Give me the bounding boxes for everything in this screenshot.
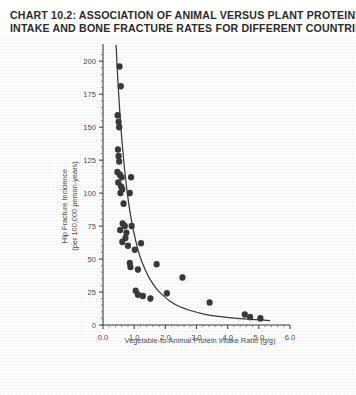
data-point <box>115 146 121 153</box>
data-point <box>127 190 133 197</box>
y-axis-tick-labels: 0255075100125150175200 <box>83 57 96 330</box>
data-point <box>129 223 135 230</box>
y-tick-label: 25 <box>88 288 96 297</box>
y-tick-label: 50 <box>88 255 96 264</box>
y-tick-label: 200 <box>83 57 96 66</box>
y-tick-label: 100 <box>83 189 96 198</box>
y-axis-title-line-2: (per 100,000 person-years) <box>70 161 79 251</box>
data-point <box>116 124 122 131</box>
data-point <box>125 243 131 250</box>
chart-title-line-1: CHART 10.2: ASSOCIATION OF ANIMAL VERSUS… <box>10 9 350 22</box>
data-point <box>116 158 122 165</box>
data-point <box>118 83 124 90</box>
fit-curve <box>116 45 270 320</box>
data-points <box>114 63 263 322</box>
data-point <box>247 314 253 321</box>
data-point <box>140 293 146 300</box>
data-point <box>115 112 121 119</box>
chart-title-line-2: INTAKE AND BONE FRACTURE RATES FOR DIFFE… <box>10 22 350 35</box>
y-tick-label: 150 <box>83 123 96 132</box>
data-point <box>120 200 126 207</box>
data-point <box>128 174 134 181</box>
y-tick-label: 125 <box>83 156 96 165</box>
data-point <box>116 63 122 70</box>
scatter-plot: 0255075100125150175200 0.01.02.03.04.05.… <box>0 36 356 395</box>
chart-figure: 0255075100125150175200 0.01.02.03.04.05.… <box>0 36 356 395</box>
data-point <box>117 190 123 197</box>
data-point <box>206 299 212 306</box>
y-tick-label: 0 <box>92 321 96 330</box>
data-point <box>154 261 160 268</box>
y-tick-label: 75 <box>88 222 96 231</box>
plot-axes <box>103 44 290 325</box>
x-tick-label: 0.0 <box>98 333 109 342</box>
x-axis-title: Vegetable-to-Animal Protein Intake Ratio… <box>125 336 276 345</box>
data-point <box>127 264 133 271</box>
data-point <box>179 274 185 281</box>
data-point <box>147 295 153 302</box>
data-point <box>132 247 138 254</box>
data-point <box>164 290 170 297</box>
chart-title: CHART 10.2: ASSOCIATION OF ANIMAL VERSUS… <box>10 9 350 35</box>
y-tick-label: 175 <box>83 90 96 99</box>
data-point <box>242 311 248 318</box>
data-point <box>119 239 125 246</box>
x-tick-label: 6.0 <box>285 333 296 342</box>
y-axis-title-line-1: Hip Fracture Incidence <box>60 169 69 243</box>
data-point <box>257 315 263 322</box>
data-point <box>117 227 123 234</box>
data-point <box>138 240 144 247</box>
data-point <box>135 266 141 273</box>
